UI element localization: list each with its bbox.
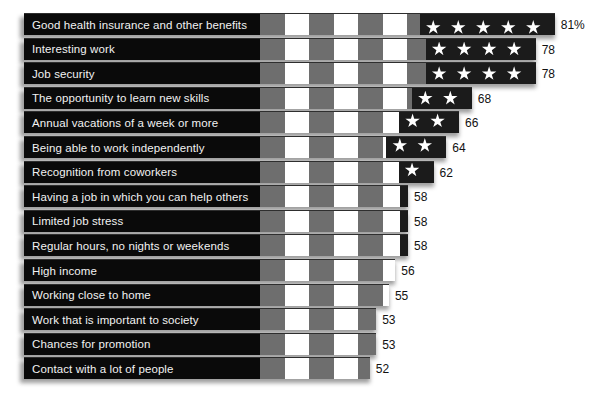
chart-bar-row: Job security78 bbox=[0, 62, 609, 86]
flag-stripes bbox=[260, 112, 459, 133]
flag-bar: Working close to home bbox=[24, 284, 389, 306]
flag-stripe bbox=[285, 186, 310, 207]
flag-stripe bbox=[285, 211, 310, 232]
flag-stripe bbox=[383, 162, 399, 183]
flag-stripe bbox=[383, 186, 401, 207]
bar-value-label: 55 bbox=[395, 289, 408, 302]
bar-category-label: Working close to home bbox=[32, 289, 151, 301]
flag-stripe bbox=[334, 39, 359, 60]
flag-stripe bbox=[358, 260, 383, 281]
bar-value-label: 62 bbox=[440, 166, 453, 179]
flag-stripe bbox=[309, 88, 334, 109]
flag-stripe bbox=[309, 334, 334, 355]
flag-stripe bbox=[285, 39, 310, 60]
flag-star-icon bbox=[482, 42, 497, 57]
flag-stripe bbox=[407, 39, 426, 60]
flag-stripe bbox=[407, 63, 426, 84]
chart-bar-row: Working close to home55 bbox=[0, 284, 609, 308]
flag-stripe bbox=[309, 63, 334, 84]
chart-root: Good health insurance and other benefits… bbox=[0, 0, 609, 400]
bar-value-label: 58 bbox=[414, 191, 427, 204]
chart-bar-row: Regular hours, no nights or weekends58 bbox=[0, 234, 609, 258]
flag-stripe bbox=[383, 14, 408, 35]
flag-stripe bbox=[358, 14, 383, 35]
bar-category-label: Work that is important to society bbox=[32, 314, 199, 326]
bar-category-label: Interesting work bbox=[32, 43, 115, 55]
flag-star-field bbox=[426, 63, 536, 84]
bar-category-label: High income bbox=[32, 265, 97, 277]
flag-bar: Interesting work bbox=[24, 38, 536, 60]
flag-stripes bbox=[260, 14, 555, 35]
flag-stripe bbox=[358, 137, 383, 158]
flag-stripe bbox=[285, 88, 310, 109]
bar-category-label: Chances for promotion bbox=[32, 338, 150, 350]
flag-bar: Being able to work independently bbox=[24, 136, 446, 158]
flag-stripe bbox=[260, 334, 285, 355]
flag-stripe bbox=[260, 309, 285, 330]
flag-star-icon bbox=[432, 66, 447, 81]
bar-value-label: 78 bbox=[542, 43, 555, 56]
chart-bar-row: Interesting work78 bbox=[0, 38, 609, 62]
flag-star-field bbox=[400, 211, 408, 232]
bar-value-label: 58 bbox=[414, 215, 427, 228]
flag-stripe bbox=[383, 63, 408, 84]
flag-star-icon bbox=[430, 113, 445, 128]
flag-star-icon bbox=[405, 163, 420, 178]
flag-bar: Good health insurance and other benefits bbox=[24, 13, 555, 35]
flag-bar: Recognition from coworkers bbox=[24, 161, 434, 183]
flag-stripe bbox=[334, 260, 359, 281]
flag-bar: Work that is important to society bbox=[24, 308, 376, 330]
flag-stripe bbox=[260, 260, 285, 281]
flag-stripe bbox=[260, 285, 285, 306]
bar-value-label: 52 bbox=[376, 363, 389, 376]
flag-stripe bbox=[285, 235, 310, 256]
bar-value-label: 53 bbox=[382, 314, 395, 327]
flag-stripe bbox=[383, 285, 389, 306]
chart-bar-row: Contact with a lot of people52 bbox=[0, 357, 609, 381]
flag-star-icon bbox=[507, 42, 522, 57]
flag-bar: Regular hours, no nights or weekends bbox=[24, 234, 408, 256]
flag-star-icon bbox=[418, 91, 433, 106]
flag-stripe bbox=[334, 186, 359, 207]
flag-stripe bbox=[358, 235, 383, 256]
flag-stripe bbox=[285, 137, 310, 158]
bar-value-label: 81% bbox=[561, 19, 585, 32]
flag-star-icon bbox=[417, 138, 432, 153]
flag-stripe bbox=[260, 63, 285, 84]
flag-stripe bbox=[260, 358, 285, 379]
flag-bar: Chances for promotion bbox=[24, 333, 376, 355]
flag-stripes bbox=[260, 39, 536, 60]
flag-stripe bbox=[309, 112, 334, 133]
flag-star-field bbox=[412, 88, 472, 109]
bar-category-label: Having a job in which you can help other… bbox=[32, 191, 248, 203]
bar-category-label: Contact with a lot of people bbox=[32, 363, 174, 375]
chart-bar-row: The opportunity to learn new skills68 bbox=[0, 87, 609, 111]
flag-bar: The opportunity to learn new skills bbox=[24, 87, 472, 109]
flag-bar: Annual vacations of a week or more bbox=[24, 111, 459, 133]
chart-bar-row: Recognition from coworkers62 bbox=[0, 161, 609, 185]
flag-star-icon bbox=[457, 42, 472, 57]
flag-stripe bbox=[309, 14, 334, 35]
flag-stripe bbox=[260, 162, 285, 183]
flag-bar: Limited job stress bbox=[24, 210, 408, 232]
bar-category-label: Good health insurance and other benefits bbox=[32, 19, 247, 31]
bar-value-label: 56 bbox=[401, 265, 414, 278]
flag-star-icon bbox=[507, 66, 522, 81]
flag-stripes bbox=[260, 162, 434, 183]
flag-stripe bbox=[285, 260, 310, 281]
flag-stripe bbox=[309, 162, 334, 183]
flag-stripe bbox=[334, 63, 359, 84]
flag-stripes bbox=[260, 309, 376, 330]
flag-stripes bbox=[260, 260, 395, 281]
flag-stripe bbox=[383, 39, 408, 60]
flag-stripe bbox=[260, 88, 285, 109]
flag-stripes bbox=[260, 211, 408, 232]
flag-stripe bbox=[383, 235, 401, 256]
flag-stripe bbox=[285, 358, 310, 379]
flag-stripe bbox=[309, 137, 334, 158]
flag-bar: High income bbox=[24, 259, 395, 281]
flag-stripe bbox=[358, 211, 383, 232]
flag-bar: Contact with a lot of people bbox=[24, 357, 370, 379]
flag-star-icon bbox=[501, 20, 516, 35]
flag-star-icon bbox=[432, 42, 447, 57]
